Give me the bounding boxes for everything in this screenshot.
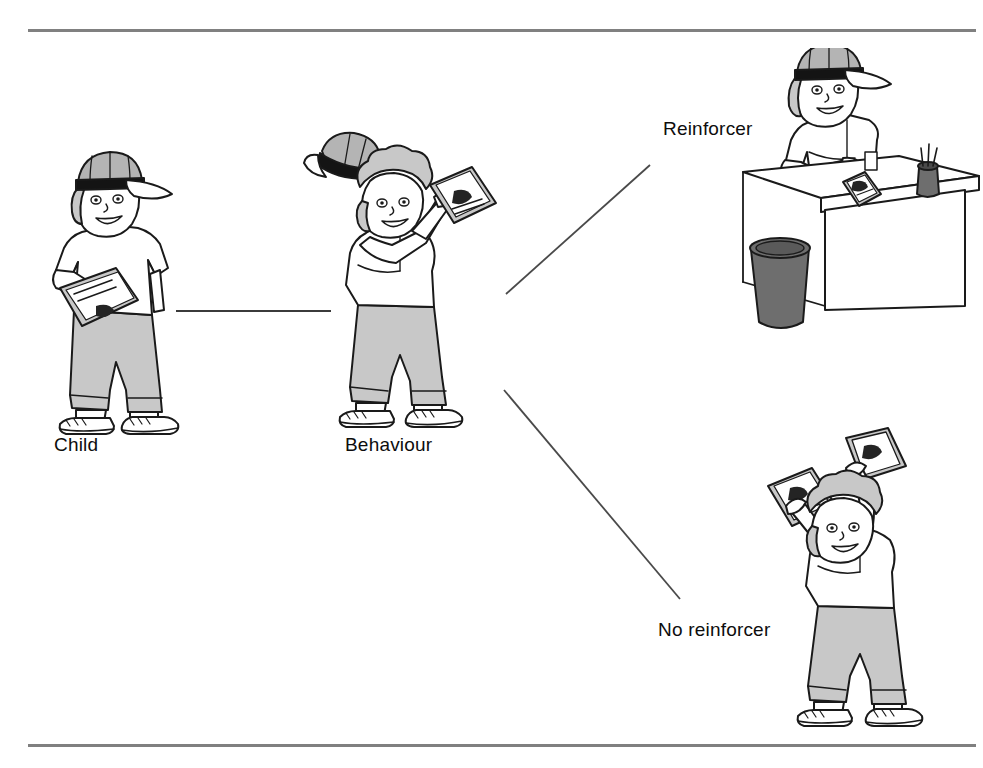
bottom-horizontal-rule [28,744,976,747]
head [362,173,423,238]
scene-child-throwing-book-and-cap [300,125,500,435]
trousers [350,305,446,405]
head [812,498,873,563]
scene-child-standing-with-book [30,140,200,435]
label-reinforcer: Reinforcer [663,118,753,140]
waste-bin [750,238,810,328]
figure-canvas: Child Behaviour Reinforcer No reinforcer [0,0,983,768]
baseball-cap-brim [845,70,891,89]
baseball-cap-brim [126,180,172,199]
connector-behaviour-to-no-reinforcer [504,390,680,599]
label-child: Child [54,434,98,456]
label-no-reinforcer: No reinforcer [658,619,770,641]
scene-child-throwing-two-books [760,420,965,735]
connector-behaviour-to-reinforcer [506,165,650,294]
scene-child-seated-at-desk [735,48,983,333]
desk-front [825,190,965,310]
label-behaviour: Behaviour [345,434,432,456]
pen-pot [917,144,939,197]
top-horizontal-rule [28,29,976,32]
desk-object [865,152,877,170]
